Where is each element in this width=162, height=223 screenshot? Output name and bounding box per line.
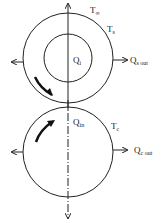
diagram-graphics bbox=[0, 0, 162, 223]
q-in-label: Qin bbox=[73, 118, 84, 130]
q-c-out-label: Qc out bbox=[134, 146, 152, 158]
bottom-rotation-arrow bbox=[36, 122, 52, 142]
t-c-label: Tc bbox=[111, 122, 119, 134]
t-s-label: Ts bbox=[107, 25, 115, 37]
t-infinity-label: T∞ bbox=[90, 6, 100, 18]
q-i-label: Qi bbox=[73, 56, 81, 68]
q-s-out-label: Qs out bbox=[130, 56, 148, 68]
heat-transfer-diagram: T∞ Ts Qi Qs out Qin Tc Qc out bbox=[0, 0, 162, 223]
